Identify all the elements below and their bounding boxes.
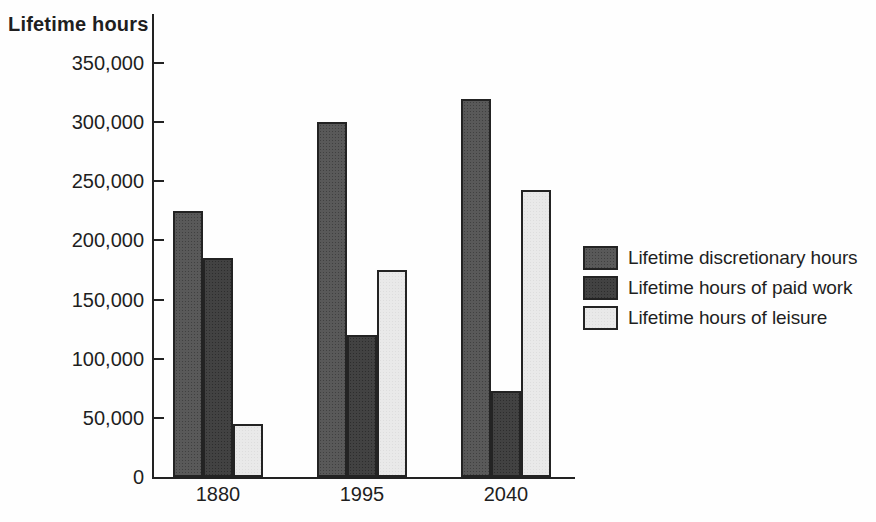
y-tick-label: 350,000 xyxy=(0,52,144,74)
legend-label-discretionary: Lifetime discretionary hours xyxy=(628,247,858,269)
bar-1995-series-2 xyxy=(377,270,407,477)
legend-item-discretionary: Lifetime discretionary hours xyxy=(583,246,858,270)
bar-2040-series-2 xyxy=(521,190,551,477)
y-tick-label: 150,000 xyxy=(0,289,144,311)
y-axis-tick xyxy=(154,180,164,182)
legend-label-paid-work: Lifetime hours of paid work xyxy=(628,277,852,299)
legend-swatch-paid-work xyxy=(583,276,618,300)
y-axis-tick xyxy=(154,358,164,360)
y-tick-label: 100,000 xyxy=(0,348,144,370)
x-tick-label-1995: 1995 xyxy=(322,483,402,506)
y-tick-label: 250,000 xyxy=(0,170,144,192)
legend-swatch-leisure xyxy=(583,306,618,330)
legend-item-leisure: Lifetime hours of leisure xyxy=(583,306,858,330)
bar-1880-series-1 xyxy=(203,258,233,477)
bar-2040-series-1 xyxy=(491,391,521,477)
y-axis-tick xyxy=(154,239,164,241)
legend-item-paid-work: Lifetime hours of paid work xyxy=(583,276,858,300)
bar-1995-series-0 xyxy=(317,122,347,477)
bar-1880-series-2 xyxy=(233,424,263,477)
bar-1880-series-0 xyxy=(173,211,203,477)
y-axis-title: Lifetime hours xyxy=(8,13,149,36)
y-axis-tick xyxy=(154,121,164,123)
y-tick-label: 0 xyxy=(0,466,144,488)
y-tick-label: 300,000 xyxy=(0,111,144,133)
plot-area xyxy=(152,14,575,479)
x-axis-line xyxy=(152,477,575,479)
y-axis-tick xyxy=(154,417,164,419)
y-tick-label: 50,000 xyxy=(0,407,144,429)
bar-chart-figure: Lifetime hours Lifetime discretionary ho… xyxy=(0,0,876,522)
legend-label-leisure: Lifetime hours of leisure xyxy=(628,307,827,329)
y-axis-tick xyxy=(154,62,164,64)
y-axis-line xyxy=(152,14,154,479)
y-axis-tick xyxy=(154,299,164,301)
legend-swatch-discretionary xyxy=(583,246,618,270)
x-tick-label-1880: 1880 xyxy=(178,483,258,506)
legend: Lifetime discretionary hours Lifetime ho… xyxy=(583,246,858,336)
x-tick-label-2040: 2040 xyxy=(466,483,546,506)
y-tick-label: 200,000 xyxy=(0,229,144,251)
bar-1995-series-1 xyxy=(347,335,377,477)
bar-2040-series-0 xyxy=(461,99,491,477)
